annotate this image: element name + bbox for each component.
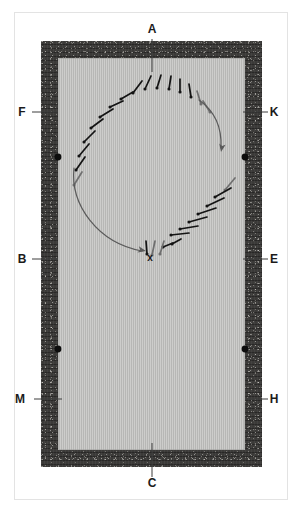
nail-find-6	[100, 109, 113, 117]
flow-arrow-right-head	[218, 144, 226, 153]
nail-head-2	[74, 168, 77, 171]
nail-find-18	[215, 188, 231, 197]
nail-head-19	[205, 204, 208, 207]
nail-find-15	[197, 91, 201, 104]
nail-find-8	[121, 92, 133, 99]
annotation-overlay: AFKBEMHCx	[0, 0, 301, 513]
nail-find-19	[207, 198, 224, 206]
post-hole-upper-left	[55, 154, 62, 161]
nail-find-12	[169, 76, 171, 89]
nail-find-20	[198, 208, 216, 214]
nail-head-10	[143, 87, 146, 90]
nail-head-12	[167, 87, 170, 90]
flow-arrow-left	[74, 168, 142, 251]
label-x: x	[147, 252, 153, 263]
nail-head-9	[131, 91, 134, 94]
nail-find-3	[79, 144, 89, 156]
nail-find-9	[133, 81, 142, 93]
nail-head-21	[187, 220, 190, 223]
nail-head-20	[196, 212, 199, 215]
nail-find-4	[84, 131, 95, 142]
labels-group: AFKBEMHCx	[15, 22, 279, 490]
nail-finds-group	[72, 75, 235, 257]
label-k: K	[270, 105, 279, 119]
nail-head-14	[189, 95, 192, 98]
nail-find-23	[171, 233, 189, 235]
nail-find-7	[110, 101, 123, 107]
label-c: C	[148, 476, 157, 490]
nail-find-14	[189, 84, 191, 97]
nail-find-22	[180, 226, 198, 229]
nail-head-4	[82, 140, 85, 143]
nail-find-10	[145, 76, 151, 89]
post-hole-lower-right	[242, 346, 249, 353]
nail-find-5	[91, 119, 103, 128]
nail-head-23	[169, 233, 172, 236]
nail-find-2	[76, 157, 85, 170]
nail-find-21	[189, 217, 207, 222]
nail-head-18	[213, 195, 216, 198]
flow-arrow-right	[199, 100, 221, 148]
plan-figure: AFKBEMHCx	[0, 0, 301, 513]
nail-head-3	[77, 154, 80, 157]
nail-head-6	[98, 115, 101, 118]
nail-head-13	[178, 90, 181, 93]
nail-head-8	[119, 97, 122, 100]
post-hole-upper-right	[242, 154, 249, 161]
nail-head-11	[155, 86, 158, 89]
nail-find-11	[157, 75, 161, 88]
post-hole-lower-left	[55, 346, 62, 353]
label-b: B	[18, 252, 27, 266]
label-m: M	[15, 392, 25, 406]
nail-head-26	[158, 252, 161, 255]
label-a: A	[148, 22, 157, 36]
label-h: H	[270, 392, 279, 406]
label-f: F	[18, 105, 25, 119]
nail-find-1	[74, 172, 82, 185]
nail-head-7	[108, 105, 111, 108]
nail-head-22	[178, 227, 181, 230]
nail-head-5	[89, 126, 92, 129]
label-e: E	[270, 252, 278, 266]
